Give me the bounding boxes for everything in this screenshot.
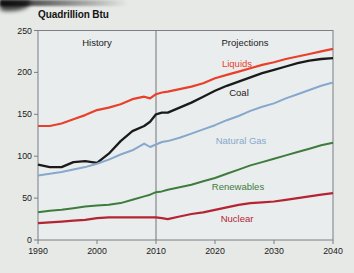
energy-outlook-figure: Quadrillion Btu 050100150200250199020002… [0, 0, 354, 273]
y-axis-tick-label: 50 [22, 193, 32, 203]
x-axis-tick-label: 2010 [146, 246, 166, 256]
y-axis-tick-label: 200 [17, 67, 32, 77]
x-axis-tick-label: 2000 [87, 246, 107, 256]
x-axis-tick-label: 2030 [264, 246, 284, 256]
y-axis-tick-label: 250 [17, 26, 32, 36]
series-label-coal: Coal [229, 87, 249, 98]
y-axis-tick-label: 150 [17, 109, 32, 119]
series-label-nuclear: Nuclear [221, 213, 254, 224]
x-axis-tick-label: 2020 [205, 246, 225, 256]
history-label: History [82, 37, 112, 48]
x-axis-tick-label: 1990 [28, 246, 48, 256]
series-label-renewables: Renewables [212, 181, 265, 192]
x-axis-tick-label: 2040 [323, 246, 343, 256]
series-label-natural-gas: Natural Gas [216, 135, 267, 146]
y-axis-tick-label: 100 [17, 151, 32, 161]
y-axis-tick-label: 0 [27, 235, 32, 245]
projections-label: Projections [222, 37, 269, 48]
series-label-liquids: Liquids [222, 58, 252, 69]
energy-consumption-line-chart: 050100150200250199020002010202020302040H… [0, 0, 354, 273]
